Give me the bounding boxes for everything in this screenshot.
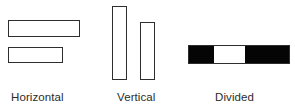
- divided-segment-left: [189, 46, 214, 63]
- vertical-bar-left: [112, 6, 127, 80]
- divided-bar: [188, 45, 290, 64]
- vertical-caption: Vertical: [117, 90, 156, 104]
- vertical-bar-right: [140, 22, 155, 80]
- divided-segment-right: [245, 46, 289, 63]
- horizontal-bar-bottom: [8, 47, 63, 63]
- bar-style-illustration: Horizontal Vertical Divided: [0, 0, 295, 112]
- divided-caption: Divided: [215, 90, 254, 104]
- horizontal-bar-top: [8, 20, 80, 37]
- horizontal-caption: Horizontal: [11, 90, 64, 104]
- divided-segment-middle: [214, 46, 245, 63]
